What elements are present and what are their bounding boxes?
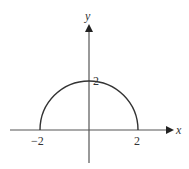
x-tick-neg2: −2 <box>31 134 44 148</box>
y-tick-2: 2 <box>93 74 99 88</box>
semicircle-graph: x y −2 2 2 <box>0 0 189 169</box>
x-tick-2: 2 <box>134 134 140 148</box>
y-axis-arrow-icon <box>85 24 93 32</box>
x-axis-label: x <box>175 123 182 137</box>
plot-canvas: x y −2 2 2 <box>0 0 189 169</box>
y-axis-label: y <box>84 9 91 23</box>
x-axis-arrow-icon <box>166 126 174 134</box>
